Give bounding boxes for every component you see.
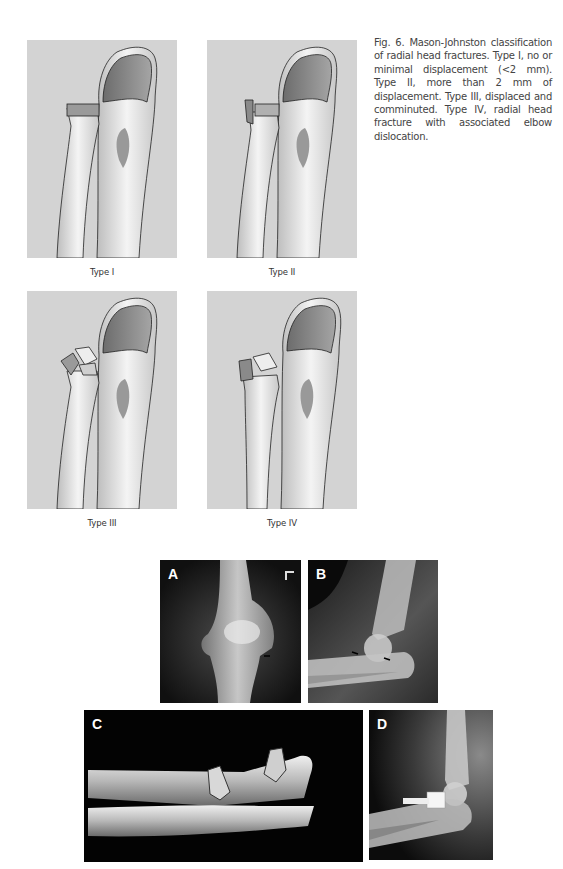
illustration-type-2 (207, 40, 357, 258)
lateral-elbow-radiograph (308, 560, 438, 703)
illustration-label-type-1: Type I (22, 267, 182, 277)
panel-label-a: A (168, 566, 178, 582)
3d-ct-reconstruction (84, 710, 363, 862)
illustration-label-type-3: Type III (22, 518, 182, 528)
xray-panel-b: B (308, 560, 438, 703)
illustration-label-type-2: Type II (202, 267, 362, 277)
ap-elbow-radiograph (160, 560, 301, 703)
elbow-bones-type-1-drawing (27, 40, 177, 258)
illustration-label-type-4: Type IV (202, 518, 362, 528)
illustration-type-4 (207, 291, 357, 509)
elbow-bones-type-3-drawing (27, 291, 177, 509)
elbow-bones-type-4-drawing (207, 291, 357, 509)
illustration-type-3 (27, 291, 177, 509)
illustration-type-1 (27, 40, 177, 258)
panel-label-c: C (92, 716, 102, 732)
panel-label-b: B (316, 566, 326, 582)
elbow-bones-type-2-drawing (207, 40, 357, 258)
xray-panel-a: A (160, 560, 301, 703)
figure-caption: Fig. 6. Mason-Johnston classification of… (374, 36, 552, 143)
xray-panel-d: D (369, 710, 493, 860)
panel-label-d: D (377, 716, 387, 732)
ct-panel-c: C (84, 710, 363, 862)
lateral-radiograph-prosthesis (369, 710, 493, 860)
